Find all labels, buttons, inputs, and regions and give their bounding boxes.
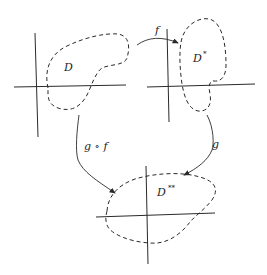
label-D-star-sup: *: [203, 50, 207, 58]
y-axis-1: [35, 33, 38, 137]
plane-image-gf: D **: [96, 166, 215, 264]
label-f: f: [154, 24, 161, 37]
x-axis-1: [14, 85, 126, 87]
composition-diagram: D D * D ** f g g ∘ f: [0, 0, 267, 275]
region-D-star-star: [106, 174, 216, 244]
label-g-compose-f: g ∘ f: [84, 140, 109, 153]
arrow-f: [137, 38, 178, 45]
y-axis-2: [167, 29, 169, 122]
plane-domain: D: [14, 33, 129, 137]
plane-image-f: D *: [147, 19, 255, 122]
region-D-star: [180, 19, 226, 111]
label-D-star: D: [192, 52, 202, 65]
x-axis-2: [147, 84, 255, 87]
arrow-g-compose-f: [76, 115, 115, 193]
label-D-star-star: D: [156, 186, 166, 199]
region-D: [47, 34, 129, 110]
label-D-star-star-sup: **: [168, 184, 176, 192]
label-D: D: [63, 61, 73, 74]
arrow-g: [184, 115, 213, 175]
label-g: g: [212, 138, 219, 151]
